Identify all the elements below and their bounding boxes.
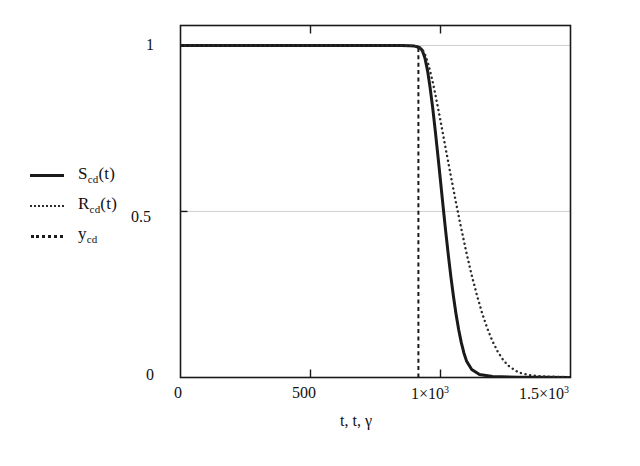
frame-rect — [181, 26, 571, 378]
plot-frame — [181, 26, 571, 378]
plot-area — [0, 0, 640, 466]
gridlines — [181, 45, 571, 211]
chart-figure: Scd(t) Rcd(t) ycd 1 0.5 0 0 500 1×103 1.… — [0, 0, 640, 466]
axis-ticks — [181, 26, 441, 378]
